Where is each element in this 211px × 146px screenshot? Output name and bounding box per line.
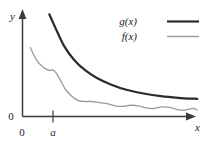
plot-svg: y x 0 0 a g(x) f(x) [0,0,211,146]
x-axis-label: x [194,121,200,133]
legend-label-f: f(x) [122,30,138,43]
x-origin-label: 0 [19,126,25,138]
y-axis-label: y [9,10,15,22]
legend-label-g: g(x) [119,15,137,28]
function-comparison-figure: y x 0 0 a g(x) f(x) [0,0,211,146]
x-tick-a-label: a [50,126,56,138]
y-zero-label: 0 [8,110,14,122]
